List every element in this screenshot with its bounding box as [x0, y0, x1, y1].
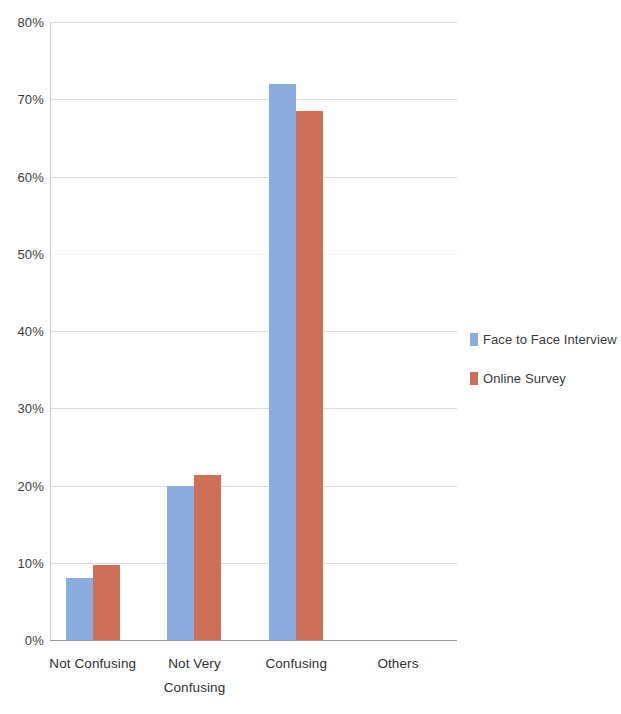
- gridline: [50, 177, 457, 178]
- x-axis-category-label-line: Not Confusing: [49, 656, 136, 671]
- y-axis-line: [50, 22, 51, 640]
- legend-swatch-icon: [470, 333, 478, 346]
- x-axis-category-label-line: Confusing: [265, 656, 327, 671]
- gridline: [50, 254, 457, 255]
- x-axis-category-label-line: Others: [377, 656, 418, 671]
- gridline: [50, 99, 457, 100]
- legend-swatch-icon: [470, 372, 478, 385]
- y-axis-tick-label: 0%: [2, 633, 44, 648]
- plot-area: [50, 22, 457, 640]
- x-axis-category-label-line: Not Very: [168, 656, 221, 671]
- y-axis-tick-label: 80%: [2, 15, 44, 30]
- chart-legend: Face to Face InterviewOnline Survey: [470, 332, 620, 410]
- bar: [93, 565, 120, 640]
- bar: [296, 111, 323, 640]
- y-axis-tick-label: 40%: [2, 324, 44, 339]
- legend-item-label: Online Survey: [483, 371, 566, 386]
- bar: [194, 475, 221, 640]
- legend-item-label: Face to Face Interview: [483, 332, 617, 347]
- y-axis-tick-label: 30%: [2, 401, 44, 416]
- legend-item[interactable]: Online Survey: [470, 371, 620, 386]
- gridline: [50, 563, 457, 564]
- legend-item[interactable]: Face to Face Interview: [470, 332, 620, 347]
- y-axis-tick-label: 70%: [2, 92, 44, 107]
- y-axis-tick-label: 10%: [2, 555, 44, 570]
- gridline: [50, 22, 457, 23]
- bar: [66, 578, 93, 640]
- bar: [269, 84, 296, 640]
- gridline: [50, 331, 457, 332]
- x-axis-line: [50, 640, 457, 641]
- gridline: [50, 486, 457, 487]
- x-axis-category-label-line: Confusing: [134, 676, 254, 700]
- x-axis-category-label: Others: [338, 652, 458, 676]
- y-axis-tick-label: 50%: [2, 246, 44, 261]
- y-axis-tick-label: 60%: [2, 169, 44, 184]
- bar: [167, 486, 194, 641]
- y-axis-tick-label: 20%: [2, 478, 44, 493]
- bar-chart: 0%10%20%30%40%50%60%70%80% Not Confusing…: [0, 0, 621, 714]
- gridline: [50, 408, 457, 409]
